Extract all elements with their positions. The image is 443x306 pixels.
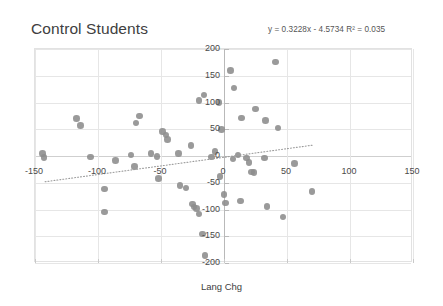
y-tick-mark [225,263,229,264]
y-tick-label: -150 [191,230,220,240]
gridline-horizontal [35,103,411,104]
x-tick-label: -100 [88,166,106,176]
data-point [251,169,258,176]
gridline-vertical [350,49,351,261]
gridline-vertical [287,49,288,261]
x-tick-label: 100 [341,166,356,176]
data-point [131,163,138,170]
data-point [309,188,316,195]
data-point [280,214,287,221]
x-tick-mark [350,259,351,263]
y-tick-mark [225,129,229,130]
y-tick-label: 50 [191,123,220,133]
data-point [133,120,140,127]
x-tick-mark [35,259,36,263]
y-axis-line [224,49,225,261]
y-tick-mark [225,210,229,211]
data-point [252,106,259,113]
data-point [264,203,271,210]
y-tick-label: 100 [191,97,220,107]
data-point [87,154,94,161]
data-point [175,150,182,157]
scatter-chart: Control Students y = 0.3228x - 4.5734 R²… [0,0,443,306]
gridline-horizontal [35,49,411,50]
x-tick-label: 50 [281,166,291,176]
data-point [231,85,238,92]
x-tick-label: -150 [25,166,43,176]
data-point [222,200,229,207]
x-axis-title: Lang Chg [0,281,443,292]
plot-inner [35,49,411,261]
data-point [154,153,161,160]
x-tick-mark [98,259,99,263]
y-tick-label: -100 [191,204,220,214]
data-point [112,157,119,164]
data-point [235,152,242,159]
y-tick-label: 150 [191,70,220,80]
data-point [128,152,135,159]
y-tick-mark [225,49,229,50]
data-point [275,125,282,132]
y-tick-label: -200 [191,257,220,267]
data-point [136,113,143,120]
x-tick-mark [224,259,225,263]
y-tick-mark [225,156,229,157]
gridline-vertical [161,49,162,261]
data-point [237,198,244,205]
data-point [272,59,279,66]
data-point [155,175,162,182]
x-tick-label: 150 [404,166,419,176]
data-point [164,136,171,143]
data-point [77,122,84,129]
gridline-horizontal [35,263,411,264]
x-tick-label: 0 [220,166,225,176]
gridline-vertical [413,49,414,261]
y-tick-label: 200 [191,43,220,53]
y-tick-label: -50 [191,177,220,187]
gridline-vertical [35,49,36,261]
y-tick-mark [225,76,229,77]
gridline-horizontal [35,236,411,237]
gridline-vertical [98,49,99,261]
data-point [39,150,46,157]
gridline-horizontal [35,183,411,184]
x-tick-mark [287,259,288,263]
y-tick-mark [225,183,229,184]
data-point [261,155,268,162]
data-point [227,67,234,74]
data-point [221,191,228,198]
x-tick-mark [161,259,162,263]
gridline-horizontal [35,210,411,211]
data-point [188,142,195,149]
data-point [238,115,245,122]
gridline-horizontal [35,76,411,77]
data-point [73,115,80,122]
x-tick-label: -50 [153,166,166,176]
y-tick-mark [225,236,229,237]
y-tick-mark [225,103,229,104]
y-tick-label: 0 [191,150,220,160]
data-point [183,185,190,192]
x-tick-mark [413,259,414,263]
trendline-equation-label: y = 0.3228x - 4.5734 R² = 0.035 [268,25,385,34]
data-point [262,117,269,124]
data-point [291,160,298,167]
data-point [101,186,108,193]
data-point [246,159,253,166]
plot-area [34,48,412,262]
chart-title: Control Students [31,20,148,38]
data-point [101,209,108,216]
